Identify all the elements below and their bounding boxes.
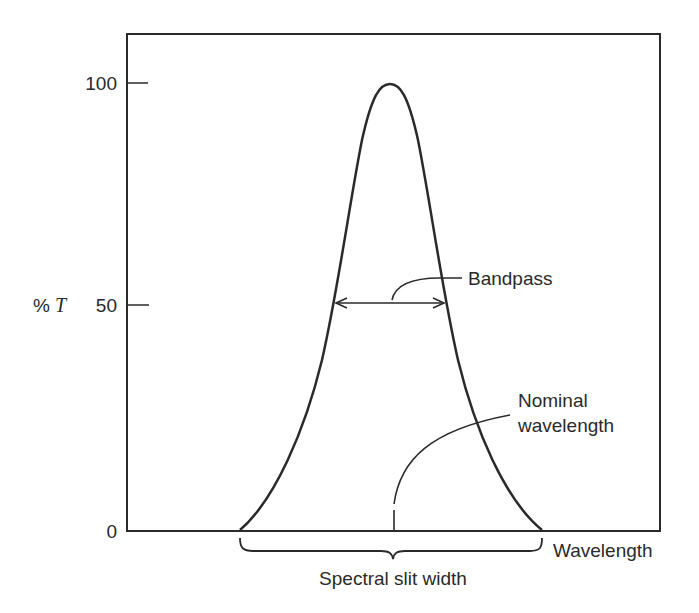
slit-width-brace (240, 538, 542, 559)
plot-frame (127, 34, 660, 531)
y-axis-label-percent: % (33, 295, 50, 316)
nominal-label-line2: wavelength (517, 415, 614, 436)
y-tick-label-50: 50 (96, 295, 117, 316)
y-axis-label-t: T (55, 294, 68, 316)
bandpass-label: Bandpass (468, 268, 553, 289)
transmission-curve (240, 84, 542, 530)
slit-width-label: Spectral slit width (319, 568, 467, 589)
x-axis-label: Wavelength (553, 540, 653, 561)
y-tick-label-100: 100 (85, 73, 117, 94)
bandpass-leader (392, 278, 462, 300)
spectral-bandpass-diagram: 100 50 0 % T Bandpass Nominal wavelength… (0, 0, 699, 613)
nominal-label-line1: Nominal (518, 390, 588, 411)
y-tick-label-0: 0 (106, 521, 117, 542)
